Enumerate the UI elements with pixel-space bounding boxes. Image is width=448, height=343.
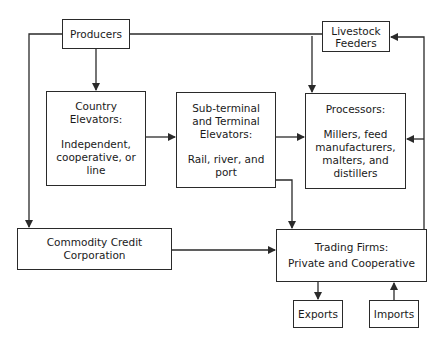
node-producers: Producers — [62, 19, 130, 49]
node-commodity-credit-corporation: Commodity Credit Corporation — [17, 228, 172, 270]
node-title: Trading Firms: — [315, 241, 388, 254]
node-label: Imports — [374, 308, 414, 321]
node-label: Livestock Feeders — [327, 25, 385, 49]
node-title: Processors: — [326, 103, 386, 116]
node-title: Country Elevators: — [51, 100, 141, 126]
node-title: Sub-terminal and Terminal Elevators: — [181, 102, 271, 141]
node-label: Commodity Credit Corporation — [18, 236, 171, 262]
node-country-elevators: Country Elevators: Independent, cooperat… — [46, 91, 146, 186]
node-exports: Exports — [293, 300, 343, 328]
node-imports: Imports — [369, 300, 419, 328]
node-processors: Processors: Millers, feed manufacturers,… — [305, 93, 406, 189]
node-label: Producers — [70, 28, 122, 41]
node-subtitle: Private and Cooperative — [288, 257, 415, 270]
arrow-subterminal-trading — [276, 180, 292, 228]
node-label: Exports — [298, 308, 338, 321]
node-subterminal-elevators: Sub-terminal and Terminal Elevators: Rai… — [176, 92, 276, 188]
node-subtitle: Rail, river, and port — [181, 153, 271, 179]
node-trading-firms: Trading Firms: Private and Cooperative — [276, 229, 427, 282]
node-subtitle: Millers, feed manufacturers, malters, an… — [312, 128, 399, 180]
node-livestock-feeders: Livestock Feeders — [322, 21, 390, 52]
node-subtitle: Independent, cooperative, or line — [51, 138, 141, 177]
